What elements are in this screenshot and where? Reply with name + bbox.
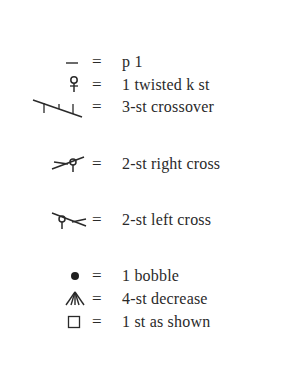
legend-row-right-cross: = 2-st right cross (0, 153, 285, 175)
equals-sign: = (92, 97, 102, 117)
right-cross-icon (48, 153, 88, 175)
legend-label: 1 bobble (122, 266, 179, 286)
legend-label: 3-st crossover (122, 97, 214, 117)
purl-dash-icon (58, 51, 86, 73)
three-st-crossover-icon (30, 96, 86, 118)
empty-square-icon (58, 311, 86, 333)
legend-label: 4-st decrease (122, 289, 208, 309)
legend-row-twisted-knit: = 1 twisted k st (0, 74, 285, 96)
twisted-knit-icon (58, 74, 86, 96)
bobble-dot-icon (58, 265, 86, 287)
equals-sign: = (92, 289, 102, 309)
legend-row-st-as-shown: = 1 st as shown (0, 311, 285, 333)
equals-sign: = (92, 52, 102, 72)
legend-row-purl: = p 1 (0, 51, 285, 73)
legend-label: 2-st left cross (122, 210, 211, 230)
four-st-decrease-icon (58, 288, 86, 310)
legend-label: 1 twisted k st (122, 75, 210, 95)
equals-sign: = (92, 312, 102, 332)
legend-row-3st-crossover: = 3-st crossover (0, 96, 285, 118)
left-cross-icon (48, 209, 88, 231)
legend-row-left-cross: = 2-st left cross (0, 209, 285, 231)
legend-label: 2-st right cross (122, 154, 220, 174)
equals-sign: = (92, 75, 102, 95)
equals-sign: = (92, 210, 102, 230)
legend-label: 1 st as shown (122, 312, 210, 332)
legend-row-4st-decrease: = 4-st decrease (0, 288, 285, 310)
legend-label: p 1 (122, 52, 143, 72)
equals-sign: = (92, 266, 102, 286)
legend-row-bobble: = 1 bobble (0, 265, 285, 287)
equals-sign: = (92, 154, 102, 174)
